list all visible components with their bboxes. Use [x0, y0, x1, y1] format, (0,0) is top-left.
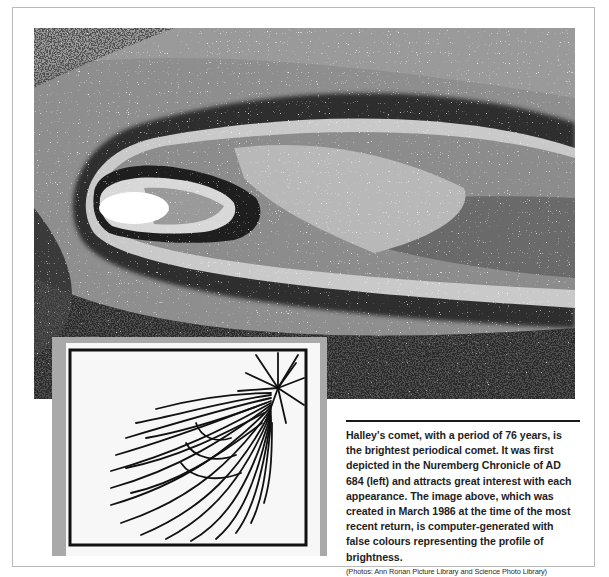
caption-rule	[346, 420, 580, 422]
woodcut-inset-frame	[52, 337, 327, 556]
caption-body: Halley's comet, with a period of 76 year…	[346, 428, 580, 565]
woodcut-comet-icon	[66, 343, 320, 556]
figure-caption: Halley's comet, with a period of 76 year…	[346, 420, 580, 577]
photo-credit: (Photos: Ann Ronan Picture Library and S…	[346, 567, 580, 577]
woodcut-paper	[66, 343, 320, 556]
